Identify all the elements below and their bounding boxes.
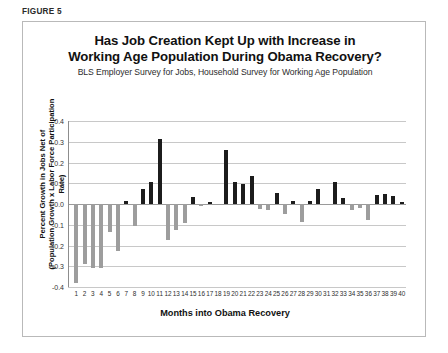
y-axis-tick-label: -0.3 xyxy=(52,263,64,270)
x-axis-tick-label: 7 xyxy=(124,290,128,297)
bar xyxy=(300,204,304,222)
bar xyxy=(199,204,203,206)
x-axis-tick-label: 1 xyxy=(74,290,78,297)
bar-slot xyxy=(373,121,381,287)
x-axis-tick-label: 17 xyxy=(206,290,213,297)
x-axis-tick-label: 4 xyxy=(99,290,103,297)
x-axis-tick-label: 21 xyxy=(240,290,247,297)
x-axis-tick-label: 5 xyxy=(108,290,112,297)
bar-slot xyxy=(72,121,80,287)
bar-slot xyxy=(197,121,205,287)
x-axis-tick-label: 19 xyxy=(223,290,230,297)
bar-slot xyxy=(314,121,322,287)
bar-slot xyxy=(206,121,214,287)
chart-title-line-2: Working Age Population During Obama Reco… xyxy=(23,49,427,65)
x-axis-tick-label: 37 xyxy=(373,290,380,297)
bar-slot xyxy=(222,121,230,287)
bar xyxy=(174,204,178,230)
x-axis-tick-label: 40 xyxy=(398,290,405,297)
x-axis-tick-label: 27 xyxy=(290,290,297,297)
bar xyxy=(341,198,345,204)
x-axis-tick-label: 35 xyxy=(357,290,364,297)
bar xyxy=(191,197,195,204)
x-axis-title: Months into Obama Recovery xyxy=(23,308,427,318)
x-axis-tick-label: 2 xyxy=(83,290,87,297)
bar xyxy=(166,204,170,240)
x-axis-tick-label: 15 xyxy=(190,290,197,297)
y-axis-tick-label: 0.0 xyxy=(54,201,64,208)
bar-slot xyxy=(323,121,331,287)
bar xyxy=(91,204,95,268)
x-axis-tick-label: 11 xyxy=(156,290,163,297)
x-axis-tick-label: 38 xyxy=(382,290,389,297)
bar-slot xyxy=(331,121,339,287)
bar-slot xyxy=(97,121,105,287)
x-axis-tick-label: 34 xyxy=(348,290,355,297)
x-axis-tick-label: 16 xyxy=(198,290,205,297)
x-axis-tick-label: 8 xyxy=(133,290,137,297)
bar-slot xyxy=(214,121,222,287)
bar-slot xyxy=(389,121,397,287)
bar xyxy=(316,189,320,204)
bar-slot xyxy=(139,121,147,287)
bar xyxy=(99,204,103,268)
bar xyxy=(208,202,212,204)
bar-slot xyxy=(156,121,164,287)
bar-slot xyxy=(89,121,97,287)
bar-series xyxy=(68,121,406,287)
bar xyxy=(308,201,312,204)
x-axis-tick-label: 33 xyxy=(340,290,347,297)
bar xyxy=(333,182,337,204)
bar-slot xyxy=(339,121,347,287)
x-axis-tick-label: 36 xyxy=(365,290,372,297)
x-axis-tick-label: 22 xyxy=(248,290,255,297)
y-axis-tick-label: 0.3 xyxy=(54,138,64,145)
bar xyxy=(391,196,395,204)
bar-slot xyxy=(264,121,272,287)
bar xyxy=(375,195,379,204)
y-axis-tick-label: -0.2 xyxy=(52,242,64,249)
y-axis-title-line-1: Percent Growth in Jobs Net of xyxy=(38,94,47,274)
x-axis-tick-label: 24 xyxy=(265,290,272,297)
bar-slot xyxy=(114,121,122,287)
y-axis-tick-label: -0.4 xyxy=(52,284,64,291)
bar xyxy=(266,204,270,210)
x-axis-tick-label: 31 xyxy=(323,290,330,297)
bar xyxy=(233,182,237,204)
x-axis-tick-label: 18 xyxy=(215,290,222,297)
bar-slot xyxy=(364,121,372,287)
x-axis-tick-label: 26 xyxy=(281,290,288,297)
bar-slot xyxy=(297,121,305,287)
bar-slot xyxy=(398,121,406,287)
bar-slot xyxy=(147,121,155,287)
x-axis-tick-label: 9 xyxy=(141,290,145,297)
figure-label: FIGURE 5 xyxy=(22,7,62,16)
chart-panel: Has Job Creation Kept Up with Increase i… xyxy=(22,21,426,337)
bar-slot xyxy=(356,121,364,287)
chart-subtitle: BLS Employer Survey for Jobs, Household … xyxy=(23,66,427,78)
figure-page: FIGURE 5 Has Job Creation Kept Up with I… xyxy=(0,0,448,353)
chart-title-block: Has Job Creation Kept Up with Increase i… xyxy=(23,33,427,78)
bar xyxy=(400,202,404,204)
y-axis-tick-label: 0.2 xyxy=(54,159,64,166)
x-axis-tick-label: 32 xyxy=(331,290,338,297)
bar-slot xyxy=(381,121,389,287)
x-axis-tick-label: 3 xyxy=(91,290,95,297)
bar xyxy=(158,139,162,204)
bar xyxy=(366,204,370,220)
bar xyxy=(183,204,187,223)
x-axis-tick-label: 12 xyxy=(164,290,171,297)
x-axis-tick-label: 14 xyxy=(181,290,188,297)
x-axis-tick-label: 25 xyxy=(273,290,280,297)
y-axis-tick-label: -0.1 xyxy=(52,221,64,228)
chart-title-line-1: Has Job Creation Kept Up with Increase i… xyxy=(23,33,427,49)
bar-slot xyxy=(105,121,113,287)
x-axis-tick-label: 20 xyxy=(231,290,238,297)
y-axis-tick-label: 0.4 xyxy=(54,118,64,125)
bar-slot xyxy=(164,121,172,287)
bar-slot xyxy=(80,121,88,287)
bar xyxy=(291,201,295,204)
bar-slot xyxy=(181,121,189,287)
x-axis-tick-label: 30 xyxy=(315,290,322,297)
bar xyxy=(149,182,153,204)
